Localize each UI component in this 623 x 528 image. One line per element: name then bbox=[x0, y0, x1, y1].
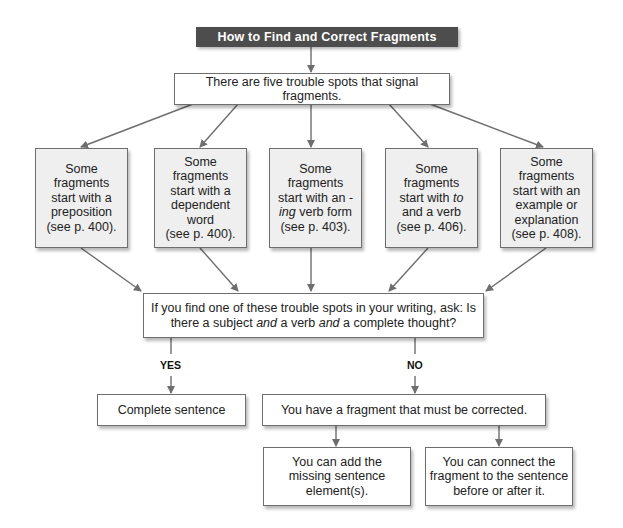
page-ref: (see p. 406). bbox=[392, 220, 472, 235]
line: before or after it. bbox=[430, 484, 568, 499]
no-result-text: You have a fragment that must be correct… bbox=[281, 403, 527, 418]
line: explanation bbox=[511, 213, 581, 228]
emphasis: and bbox=[319, 316, 340, 330]
text: a complete thought? bbox=[343, 316, 456, 330]
trouble-spot-example: Some fragments start with an example or … bbox=[500, 148, 593, 248]
no-label: NO bbox=[407, 359, 423, 371]
line: fragments bbox=[165, 169, 235, 184]
page-ref: (see p. 400). bbox=[46, 220, 116, 235]
fix-add-element-box: You can add the missing sentence element… bbox=[263, 447, 411, 506]
complete-sentence-box: Complete sentence bbox=[97, 394, 246, 426]
question-line-1: If you find one of these trouble spots i… bbox=[151, 301, 476, 316]
yes-label: YES bbox=[160, 359, 181, 371]
fix-connect-box: You can connect the fragment to the sent… bbox=[425, 447, 573, 506]
page-ref: (see p. 408). bbox=[511, 227, 581, 242]
line: word bbox=[165, 213, 235, 228]
line: example or bbox=[511, 198, 581, 213]
line: fragments bbox=[511, 169, 581, 184]
text: there a subject bbox=[171, 316, 253, 330]
line: element(s). bbox=[289, 484, 386, 499]
line: preposition bbox=[46, 205, 116, 220]
line: verb form bbox=[299, 205, 352, 219]
line: missing sentence bbox=[289, 469, 386, 484]
trouble-spot-dependent-word: Some fragments start with a dependent wo… bbox=[154, 148, 247, 248]
fragment-box: You have a fragment that must be correct… bbox=[262, 394, 546, 426]
line: Some fragments start with bbox=[400, 162, 460, 205]
line: Some fragments start with an bbox=[278, 162, 345, 205]
intro-box: There are five trouble spots that signal… bbox=[174, 73, 450, 105]
diagram-title: How to Find and Correct Fragments bbox=[196, 27, 458, 47]
trouble-spot-ing-verb: Some fragments start with an -ing verb f… bbox=[269, 148, 362, 248]
line: start with an bbox=[511, 184, 581, 199]
line: You can connect the bbox=[430, 455, 568, 470]
line: fragments bbox=[46, 176, 116, 191]
line: Some bbox=[165, 155, 235, 170]
line: start with a bbox=[46, 191, 116, 206]
page-ref: (see p. 400). bbox=[165, 227, 235, 242]
emphasis: and bbox=[256, 316, 277, 330]
intro-text: There are five trouble spots that signal… bbox=[175, 75, 449, 104]
trouble-spot-to-verb: Some fragments start with to and a verb … bbox=[385, 148, 478, 248]
line: fragment to the sentence bbox=[430, 469, 568, 484]
line: dependent bbox=[165, 198, 235, 213]
flowchart-canvas: How to Find and Correct Fragments There … bbox=[0, 0, 623, 528]
text: a verb bbox=[280, 316, 315, 330]
emphasis: to bbox=[453, 191, 463, 205]
line: Some bbox=[46, 162, 116, 177]
line: and a verb bbox=[402, 205, 461, 219]
trouble-spot-preposition: Some fragments start with a preposition … bbox=[35, 148, 128, 248]
line: start with a bbox=[165, 184, 235, 199]
question-line-2: there a subject and a verb and a complet… bbox=[151, 316, 476, 331]
page-ref: (see p. 403). bbox=[275, 220, 357, 235]
question-box: If you find one of these trouble spots i… bbox=[143, 293, 484, 338]
line: Some bbox=[511, 155, 581, 170]
line: You can add the bbox=[289, 455, 386, 470]
yes-result-text: Complete sentence bbox=[118, 403, 226, 418]
